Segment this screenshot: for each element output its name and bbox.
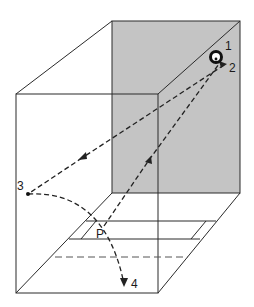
- source-ring-icon: [211, 52, 222, 63]
- label-1: 1: [225, 39, 232, 53]
- label-P: P: [96, 227, 104, 241]
- diagram-canvas: 1 2 3 4 P: [0, 0, 254, 307]
- label-4: 4: [131, 277, 138, 291]
- room-diagram: 1 2 3 4 P: [0, 0, 254, 307]
- point-3-dot: [26, 192, 30, 196]
- label-3: 3: [17, 179, 24, 193]
- arrow-icon: [120, 278, 128, 287]
- back-wall-shaded: [112, 21, 240, 193]
- label-2: 2: [229, 61, 236, 75]
- arrow-icon: [78, 152, 87, 160]
